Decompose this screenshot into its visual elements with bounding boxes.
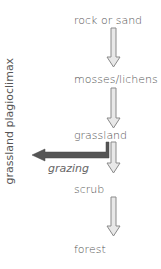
arrow-down-icon <box>107 28 120 67</box>
stage-scrub: scrub <box>74 183 154 196</box>
arrow-down-icon <box>107 88 120 128</box>
arrow-down-icon <box>107 197 120 236</box>
stage-rock-or-sand: rock or sand <box>74 14 154 27</box>
stage-grassland: grassland <box>74 129 154 142</box>
grazing-label: grazing <box>48 162 89 175</box>
deflection-arrow-icon <box>32 142 109 161</box>
stage-mosses-lichens: mosses/lichens <box>74 73 154 86</box>
plagioclimax-label: grassland plagioclimax <box>3 55 16 185</box>
stage-forest: forest <box>74 243 154 256</box>
